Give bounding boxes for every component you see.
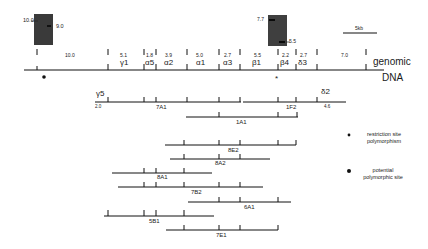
clone-label-5B1: 5B1 — [149, 218, 160, 224]
gel1-band-label-1: 10.0 — [23, 17, 34, 23]
legend-potential-site: potential polymorphic site — [352, 167, 414, 181]
scale-bar-label: 5kb — [355, 25, 363, 31]
clone-size-right: 4.6 — [324, 104, 330, 109]
gene-label: α2 — [164, 58, 173, 67]
clone-label-8A1: 8A1 — [157, 174, 168, 180]
gene-label: α5 — [145, 58, 154, 67]
clone-label-7E1: 7E1 — [216, 232, 227, 238]
clone-label-1A1: 1A1 — [236, 119, 247, 125]
clone-label-1F2: 1F2 — [286, 104, 296, 110]
clone-label-8E2: 8E2 — [228, 147, 239, 153]
clone-gene-right: δ2 — [321, 87, 330, 96]
fragment-size: 7.0 — [341, 52, 348, 58]
gel1-band-label-2: 9.0 — [56, 23, 64, 29]
gene-label: β4 — [280, 58, 289, 67]
gene-label: δ3 — [298, 58, 307, 67]
clone-gene-left: γ5 — [96, 89, 104, 98]
gene-label: α3 — [223, 58, 232, 67]
genomic-label: genomic — [373, 56, 411, 67]
clone-label-6A1: 6A1 — [244, 204, 255, 210]
clone-label-7B2: 7B2 — [191, 189, 202, 195]
gene-label: β1 — [252, 58, 261, 67]
clone-size-left: 2.0 — [95, 104, 101, 109]
dna-label: DNA — [382, 72, 403, 83]
fragment-size: 10.0 — [65, 52, 75, 58]
gel2-band-label-2: 5.5 — [289, 38, 296, 44]
legend-restriction-site: restriction site polymorphism — [354, 131, 414, 145]
gel2-band-label-1: 7.7 — [257, 16, 264, 22]
gene-label: α1 — [196, 58, 205, 67]
clone-label-7A1: 7A1 — [156, 104, 167, 110]
clone-label-8A2: 8A2 — [215, 160, 226, 166]
gene-label: γ1 — [120, 58, 128, 67]
